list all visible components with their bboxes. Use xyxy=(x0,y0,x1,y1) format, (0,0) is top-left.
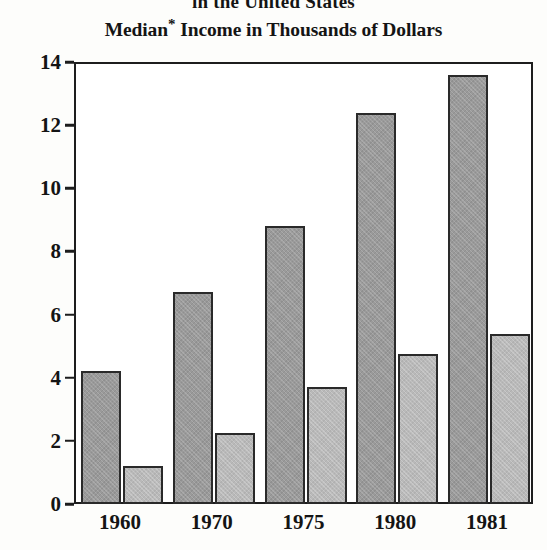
x-axis-label-1970: 1970 xyxy=(166,510,258,535)
y-axis-tick-label: 2 xyxy=(51,430,62,451)
x-axis-label-1981: 1981 xyxy=(441,510,533,535)
y-axis-tick: 12 xyxy=(0,117,74,133)
y-axis-tick-mark xyxy=(65,313,74,316)
x-axis-label-1960: 1960 xyxy=(74,510,166,535)
bar-group xyxy=(81,62,163,504)
y-axis-tick-mark xyxy=(65,376,74,379)
bar-series-dark-1960 xyxy=(81,371,121,504)
y-axis-tick-mark xyxy=(65,250,74,253)
y-axis-tick-label: 0 xyxy=(51,494,62,515)
y-axis-tick: 0 xyxy=(0,496,74,512)
y-axis-tick-mark xyxy=(65,187,74,190)
y-axis-tick-label: 12 xyxy=(40,115,61,136)
y-axis-tick-label: 6 xyxy=(51,304,62,325)
bar-series-dark-1980 xyxy=(356,113,396,504)
x-axis: 19601970197519801981 xyxy=(74,506,533,548)
chart-title-stem: Median xyxy=(105,19,168,40)
y-axis-tick-mark xyxy=(65,61,74,64)
y-axis: 02468101214 xyxy=(0,55,74,515)
bar-series-light-1975 xyxy=(307,387,347,504)
bar-series-light-1970 xyxy=(215,433,255,504)
bar-group xyxy=(173,62,255,504)
y-axis-tick: 10 xyxy=(0,180,74,196)
bar-group xyxy=(356,62,438,504)
y-axis-tick-mark xyxy=(65,440,74,443)
y-axis-tick-label: 10 xyxy=(40,178,61,199)
bar-series-dark-1981 xyxy=(448,75,488,504)
y-axis-tick: 2 xyxy=(0,433,74,449)
bar-series-dark-1970 xyxy=(173,292,213,504)
y-axis-tick: 14 xyxy=(0,54,74,70)
bars-layer xyxy=(74,62,533,504)
bar-series-light-1980 xyxy=(398,354,438,504)
bar-series-light-1981 xyxy=(490,334,530,504)
y-axis-tick-mark xyxy=(65,503,74,506)
bar-group xyxy=(448,62,530,504)
bar-group xyxy=(265,62,347,504)
y-axis-tick: 8 xyxy=(0,243,74,259)
chart-title-rest: Income in Thousands of Dollars xyxy=(175,19,442,40)
y-axis-tick-label: 4 xyxy=(51,367,62,388)
x-axis-label-1975: 1975 xyxy=(258,510,350,535)
x-axis-label-1980: 1980 xyxy=(349,510,441,535)
chart-supertitle: in the United States xyxy=(0,0,547,13)
chart-title: Median* Income in Thousands of Dollars xyxy=(0,19,547,41)
y-axis-tick: 4 xyxy=(0,370,74,386)
y-axis-tick-mark xyxy=(65,124,74,127)
y-axis-tick-label: 8 xyxy=(51,241,62,262)
chart-page: in the United States Median* Income in T… xyxy=(0,0,547,550)
y-axis-tick-label: 14 xyxy=(40,52,61,73)
bar-series-light-1960 xyxy=(123,466,163,504)
bar-series-dark-1975 xyxy=(265,226,305,504)
y-axis-tick: 6 xyxy=(0,307,74,323)
